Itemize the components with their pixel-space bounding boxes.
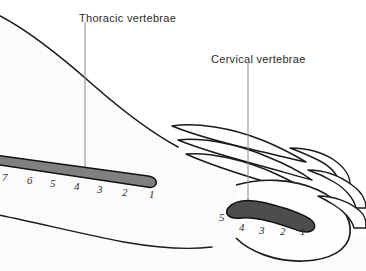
thoracic-number-6: 6 (27, 175, 33, 186)
thoracic-number-1: 1 (149, 189, 155, 200)
cervical-number-2: 2 (280, 226, 286, 237)
cervical-number-1: 1 (300, 226, 306, 237)
cervical-number-5: 5 (219, 212, 225, 223)
diagram-canvas (0, 0, 366, 271)
anatomical-figure: Thoracic vertebrae Cervical vertebrae 7 … (0, 0, 366, 271)
thoracic-number-5: 5 (50, 178, 56, 189)
thoracic-number-7: 7 (2, 172, 8, 183)
thoracic-number-3: 3 (97, 184, 103, 195)
cervical-number-3: 3 (259, 225, 265, 236)
cervical-number-4: 4 (239, 222, 245, 233)
thoracic-number-4: 4 (74, 181, 80, 192)
thoracic-number-2: 2 (122, 187, 128, 198)
label-thoracic-vertebrae: Thoracic vertebrae (79, 13, 176, 24)
label-cervical-vertebrae: Cervical vertebrae (211, 54, 306, 65)
